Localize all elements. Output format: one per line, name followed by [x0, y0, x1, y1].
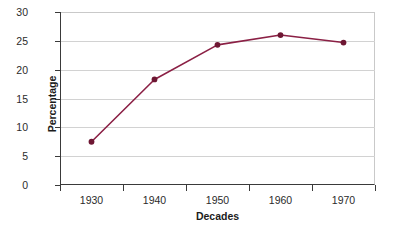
y-tick-label: 30 — [0, 6, 28, 18]
series-line — [92, 35, 344, 142]
x-axis-title: Decades — [60, 210, 375, 222]
data-point-marker — [278, 32, 284, 38]
x-tick-label: 1950 — [188, 194, 248, 206]
y-tick-label: 20 — [0, 64, 28, 76]
x-tick-label: 1930 — [62, 194, 122, 206]
x-tick-mark — [312, 185, 313, 191]
x-tick-mark — [60, 185, 61, 191]
y-tick-label: 10 — [0, 121, 28, 133]
x-tick-label: 1970 — [314, 194, 374, 206]
line-chart-figure: 051015202530 19301940195019601970 Percen… — [0, 0, 405, 230]
x-tick-label: 1940 — [125, 194, 185, 206]
x-tick-mark — [123, 185, 124, 191]
x-tick-mark — [249, 185, 250, 191]
x-tick-mark — [186, 185, 187, 191]
data-point-marker — [89, 139, 95, 145]
y-tick-label: 25 — [0, 35, 28, 47]
y-tick-label: 15 — [0, 93, 28, 105]
data-series-layer — [60, 12, 375, 185]
data-point-marker — [215, 42, 221, 48]
data-point-marker — [341, 40, 347, 46]
x-tick-mark — [375, 185, 376, 191]
y-axis-title: Percentage — [46, 44, 58, 164]
x-tick-label: 1960 — [251, 194, 311, 206]
y-tick-label: 0 — [0, 179, 28, 191]
series-markers — [89, 32, 347, 144]
y-tick-label: 5 — [0, 150, 28, 162]
data-point-marker — [152, 77, 158, 83]
